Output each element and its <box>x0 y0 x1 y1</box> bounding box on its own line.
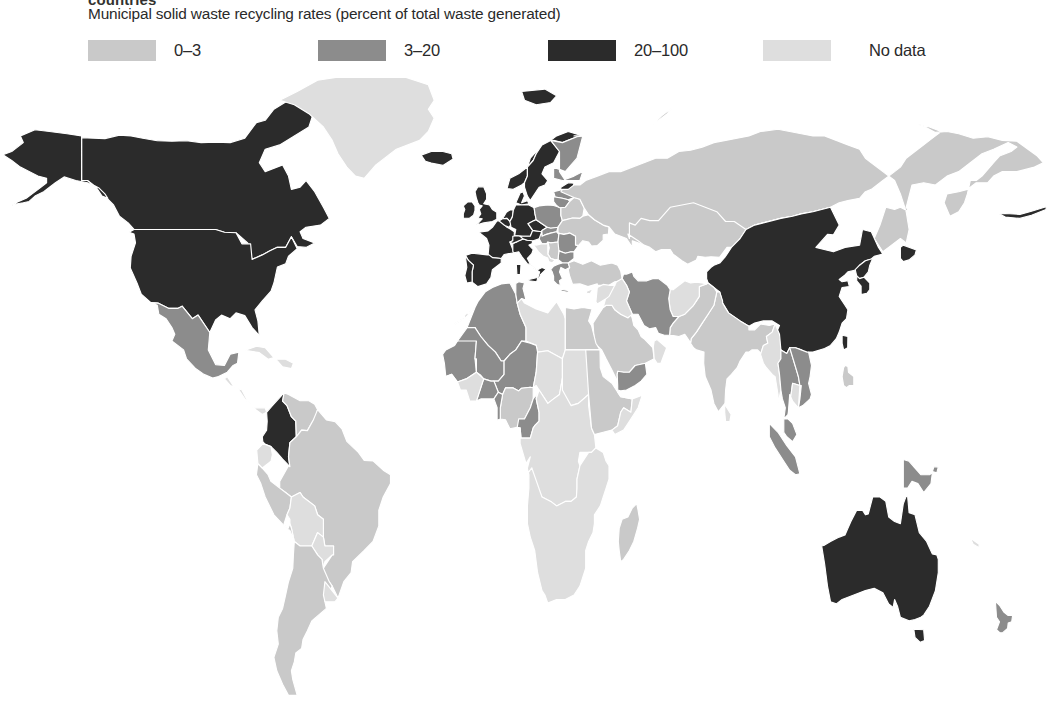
country-southkorea[interactable] <box>857 276 870 295</box>
country-philippines[interactable] <box>842 366 854 388</box>
country-newcaledonia[interactable] <box>970 538 979 548</box>
country-unitedkingdom[interactable] <box>475 187 497 225</box>
country-cyprus[interactable] <box>587 289 593 294</box>
country-hispaniola[interactable] <box>276 359 294 368</box>
country-srilanka[interactable] <box>725 404 731 421</box>
country-aleutians[interactable] <box>1000 207 1047 219</box>
country-centralamerica[interactable] <box>224 377 266 415</box>
country-newzealand[interactable] <box>995 601 1012 633</box>
legend-item-low[interactable]: 0–3 <box>88 38 201 62</box>
legend-swatch-low <box>88 40 156 61</box>
world-map-svg[interactable] <box>0 78 1049 702</box>
country-australia[interactable] <box>822 496 939 621</box>
country-taiwan[interactable] <box>842 335 848 350</box>
world-map[interactable] <box>0 78 1049 702</box>
legend-item-mid[interactable]: 3–20 <box>318 38 440 62</box>
country-svalbard[interactable] <box>522 89 557 105</box>
country-papuanewguinea[interactable] <box>903 460 932 493</box>
legend-swatch-nodata <box>763 40 831 61</box>
legend-item-high[interactable]: 20–100 <box>548 38 688 62</box>
legend-label-nodata: No data <box>869 41 925 60</box>
legend-swatch-mid <box>318 40 386 61</box>
country-tasmania[interactable] <box>914 629 925 642</box>
country-cuba[interactable] <box>245 346 274 359</box>
country-sicily[interactable] <box>529 278 538 282</box>
country-malaysia[interactable] <box>784 419 797 442</box>
country-iceland[interactable] <box>421 152 453 166</box>
choropleth-figure: countries Municipal solid waste recyclin… <box>0 0 1049 702</box>
legend-label-low: 0–3 <box>174 41 201 60</box>
legend-label-high: 20–100 <box>634 41 688 60</box>
country-japan[interactable] <box>900 245 916 262</box>
map-legend: 0–3 3–20 20–100 No data <box>88 38 1018 62</box>
country-oman[interactable] <box>653 340 666 364</box>
country-pngislands[interactable] <box>932 467 938 473</box>
legend-swatch-high <box>548 40 616 61</box>
country-turkey[interactable] <box>568 261 622 287</box>
country-sardinia[interactable] <box>516 264 521 274</box>
country-novayazemlya[interactable] <box>644 107 673 132</box>
country-greece[interactable] <box>551 263 570 286</box>
country-crete[interactable] <box>561 289 569 292</box>
country-madagascar[interactable] <box>618 504 639 562</box>
legend-label-mid: 3–20 <box>404 41 440 60</box>
chart-subtitle: Municipal solid waste recycling rates (p… <box>88 5 561 23</box>
country-ireland[interactable] <box>463 202 475 219</box>
country-ecuador[interactable] <box>257 444 273 468</box>
legend-item-nodata[interactable]: No data <box>763 38 925 62</box>
